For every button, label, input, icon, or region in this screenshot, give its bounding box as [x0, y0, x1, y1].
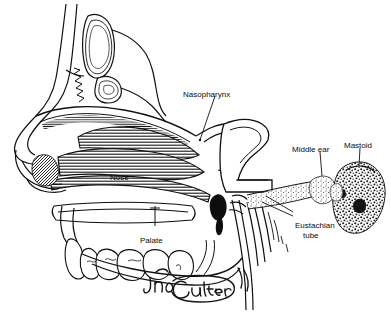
nasopharynx-opening — [210, 194, 227, 235]
label-eustachian-tube-line1: Eustachian — [295, 221, 335, 230]
pharyngeal-wall-shading — [268, 212, 288, 252]
soft-palate-arcs — [196, 240, 215, 276]
frontal-sinus — [83, 15, 115, 79]
leader-nasopharynx — [200, 96, 215, 140]
face-profile — [15, 4, 77, 164]
anatomy-figure: Nasopharynx Nose Palate Middle ear Masto… — [0, 0, 391, 312]
inferior-turbinate — [50, 176, 210, 202]
label-mastoid: Mastoid — [344, 141, 372, 150]
nasal-vestibule-shading — [32, 155, 58, 186]
label-eustachian-tube-line2: tube — [303, 231, 319, 240]
frontal-suture — [74, 68, 84, 102]
label-nose: Nose — [110, 173, 129, 182]
anatomy-illustration: Nasopharynx Nose Palate Middle ear Masto… — [0, 0, 391, 312]
pharyngeal-wall — [232, 200, 271, 310]
label-middle-ear: Middle ear — [292, 145, 330, 154]
label-nasopharynx: Nasopharynx — [183, 90, 230, 99]
sphenoid-sinus — [95, 76, 122, 103]
teeth — [65, 239, 193, 281]
mastoid-neck — [330, 184, 343, 202]
torus-tubarius — [229, 195, 248, 214]
label-palate: Palate — [140, 236, 163, 245]
leader-middle-ear — [320, 152, 322, 176]
